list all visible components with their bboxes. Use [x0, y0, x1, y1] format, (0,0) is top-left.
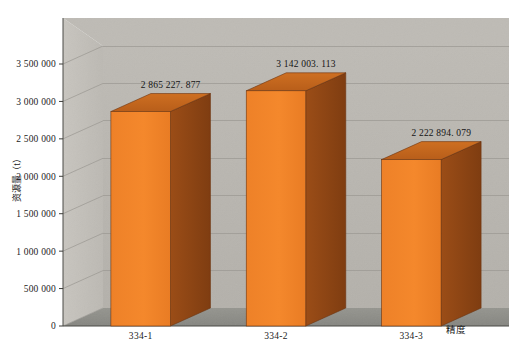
y-axis-title-group: 资源量（t）	[12, 154, 22, 202]
bar-front-face	[111, 112, 171, 326]
x-category-label: 334-1	[129, 331, 153, 341]
y-tick-label: 1 000 000	[16, 247, 56, 257]
bar-front-face	[246, 91, 306, 326]
y-tick-label: 2 500 000	[16, 134, 56, 144]
bar-value-label: 3 142 003. 113	[276, 59, 335, 69]
bar-side-face	[441, 142, 481, 326]
bar-3d[interactable]	[382, 142, 482, 326]
bar-3d[interactable]	[111, 94, 211, 326]
x-category-label: 334-2	[264, 331, 288, 341]
y-axis-title: 资源量（t）	[12, 154, 22, 202]
y-tick-label: 0	[51, 321, 56, 331]
y-tick-label: 3 000 000	[16, 97, 56, 107]
y-tick-label: 500 000	[24, 284, 56, 294]
x-category-label: 334-3	[399, 331, 423, 341]
y-tick-label: 3 500 000	[16, 59, 56, 69]
bar-side-face	[170, 94, 210, 326]
bar-3d[interactable]	[246, 73, 346, 326]
chart-svg: 0500 0001 000 0001 500 0002 000 0002 500…	[0, 0, 517, 342]
bar-value-label: 2 222 894. 079	[411, 128, 471, 138]
bar-chart-3d: 0500 0001 000 0001 500 0002 000 0002 500…	[0, 0, 517, 342]
x-axis-title: 精度	[446, 324, 466, 335]
bar-value-label: 2 865 227. 877	[141, 80, 201, 90]
y-tick-label: 2 000 000	[16, 172, 56, 182]
bar-front-face	[382, 160, 442, 326]
y-tick-label: 1 500 000	[16, 209, 56, 219]
bar-side-face	[306, 73, 346, 326]
